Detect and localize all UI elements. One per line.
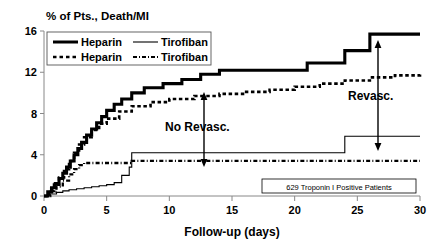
x-tick-label: 20 <box>289 204 301 216</box>
x-tick-label: 0 <box>41 204 47 216</box>
x-tick-label: 30 <box>414 204 426 216</box>
footnote-text: 629 Troponin I Positive Patients <box>286 183 392 192</box>
chart-title: % of Pts., Death/MI <box>46 10 149 22</box>
y-tick-label: 8 <box>31 108 37 120</box>
y-tick-label: 0 <box>31 190 37 202</box>
y-tick-label: 12 <box>25 66 37 78</box>
x-tick-label: 10 <box>163 204 175 216</box>
legend-label-tirofiban-norevasc: Tirofiban <box>161 51 208 63</box>
x-tick-label: 25 <box>351 204 363 216</box>
chart-container: 0481216 051015202530 % of Pts., Death/MI… <box>0 0 431 241</box>
x-tick-label: 15 <box>226 204 238 216</box>
callout-revasc: Revasc. <box>348 89 393 103</box>
y-tick-label: 16 <box>25 25 37 37</box>
x-tick-label: 5 <box>104 204 110 216</box>
footnote-box: 629 Troponin I Positive Patients <box>262 179 416 193</box>
legend-label-heparin-norevasc: Heparin <box>81 51 122 63</box>
y-tick-label: 4 <box>31 149 38 161</box>
legend-label-heparin-revasc: Heparin <box>81 36 122 48</box>
chart-legend: Heparin Tirofiban Heparin Tirofiban <box>47 32 211 65</box>
legend-label-tirofiban-revasc: Tirofiban <box>161 36 208 48</box>
callout-no-revasc: No Revasc. <box>165 120 230 134</box>
death-mi-kaplan-meier-chart: 0481216 051015202530 % of Pts., Death/MI… <box>0 0 431 241</box>
x-axis-label: Follow-up (days) <box>184 225 279 239</box>
